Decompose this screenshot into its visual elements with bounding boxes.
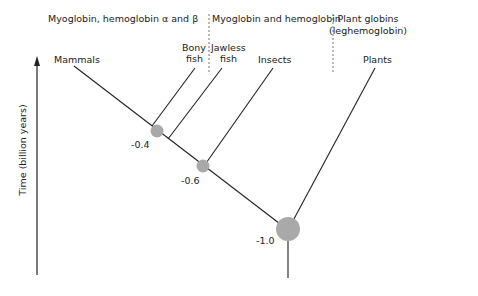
branch-bony-fish xyxy=(152,68,195,126)
taxon-bony-fish-line1: Bony xyxy=(182,42,206,53)
node-0.6 xyxy=(197,160,210,173)
node-label-1.0: -1.0 xyxy=(256,235,275,246)
axis-label: Time (billion years) xyxy=(17,104,28,195)
taxon-jawless-fish-line2: fish xyxy=(220,53,237,64)
header-left: Myoglobin, hemoglobin α and β xyxy=(48,13,198,24)
taxon-plants: Plants xyxy=(363,54,392,65)
taxon-bony-fish-line2: fish xyxy=(186,53,203,64)
branch-insects xyxy=(204,68,273,166)
axis-arrow-icon xyxy=(34,56,40,66)
branch-mammals xyxy=(74,66,288,230)
node-label-0.6: -0.6 xyxy=(181,175,200,186)
branch-plants xyxy=(288,68,375,230)
node-label-0.4: -0.4 xyxy=(131,139,150,150)
taxon-jawless-fish-line1: Jawless xyxy=(211,42,246,53)
header-right-line1: Plant globins xyxy=(318,13,418,24)
taxon-insects: Insects xyxy=(258,54,292,65)
node-1.0 xyxy=(276,217,300,241)
node-0.4 xyxy=(151,125,164,138)
branch-jawless-fish xyxy=(168,68,222,139)
header-right-line2: (leghemoglobin) xyxy=(318,25,418,36)
taxon-mammals: Mammals xyxy=(54,54,100,65)
